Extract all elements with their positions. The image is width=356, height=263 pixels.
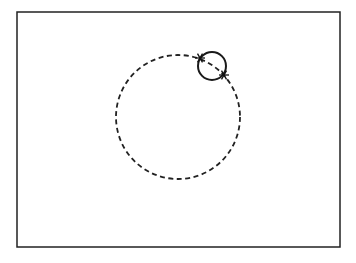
frame-border [17,12,340,247]
diagram-canvas [0,0,356,263]
dashed-circle [116,55,240,179]
solid-circle [198,52,226,80]
